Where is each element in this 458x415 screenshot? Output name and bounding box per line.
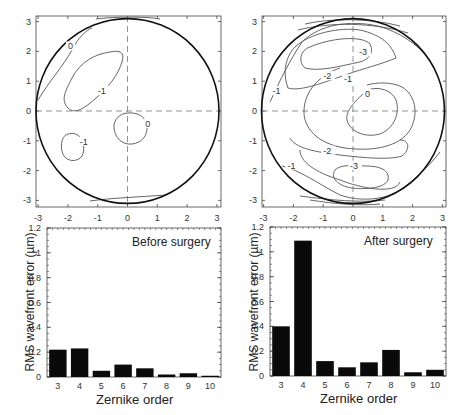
svg-text:0: 0 <box>365 89 370 99</box>
svg-text:3: 3 <box>55 381 60 391</box>
svg-text:2: 2 <box>26 46 31 56</box>
svg-text:-1: -1 <box>319 213 327 223</box>
svg-text:9: 9 <box>410 380 415 390</box>
svg-text:-1: -1 <box>344 74 352 84</box>
bar-6 <box>338 367 356 376</box>
x-axis-label-after: Zernike order <box>320 391 397 406</box>
svg-text:10: 10 <box>205 381 215 391</box>
bar-6 <box>114 365 131 377</box>
bar-7 <box>136 368 153 377</box>
svg-text:0: 0 <box>26 106 31 116</box>
before-surgery-label: Before surgery <box>132 235 211 249</box>
svg-text:7: 7 <box>142 381 147 391</box>
svg-text:-2: -2 <box>23 166 31 176</box>
svg-text:10: 10 <box>430 380 440 390</box>
svg-text:-2: -2 <box>64 213 72 223</box>
after-surgery-label: After surgery <box>364 234 433 248</box>
svg-text:-2: -2 <box>323 71 331 81</box>
svg-text:-1: -1 <box>94 213 102 223</box>
svg-text:1: 1 <box>252 76 257 86</box>
svg-text:-1: -1 <box>287 161 295 171</box>
contour-plot-before: -3-2-101233210-1-2-30-10-1 <box>23 16 221 223</box>
svg-text:6: 6 <box>344 380 349 390</box>
svg-text:-1: -1 <box>273 86 281 96</box>
svg-text:4: 4 <box>77 381 82 391</box>
svg-text:5: 5 <box>322 380 327 390</box>
svg-text:2: 2 <box>410 213 415 223</box>
svg-text:3: 3 <box>278 380 283 390</box>
svg-text:6: 6 <box>121 381 126 391</box>
svg-text:-1: -1 <box>23 136 31 146</box>
bar-10 <box>201 376 218 377</box>
svg-text:0: 0 <box>68 41 73 51</box>
svg-text:-3: -3 <box>249 195 257 205</box>
y-axis-label-after: RMS wavefront error (µm) <box>247 212 261 392</box>
svg-text:5: 5 <box>99 381 104 391</box>
x-axis-label-before: Zernike order <box>96 392 173 407</box>
svg-text:-2: -2 <box>323 146 331 156</box>
svg-text:1: 1 <box>26 76 31 86</box>
svg-text:-1: -1 <box>80 137 88 147</box>
svg-text:-3: -3 <box>23 195 31 205</box>
svg-text:3: 3 <box>440 213 445 223</box>
svg-text:2: 2 <box>185 213 190 223</box>
svg-text:7: 7 <box>366 380 371 390</box>
svg-text:1: 1 <box>155 213 160 223</box>
svg-text:3: 3 <box>214 213 219 223</box>
contour-plot-after: -3-2-101233210-1-2-3-3-2-1-10-2-3-1 <box>249 16 446 223</box>
bar-7 <box>360 362 378 376</box>
svg-text:2: 2 <box>252 46 257 56</box>
svg-text:8: 8 <box>164 381 169 391</box>
svg-text:-2: -2 <box>289 213 297 223</box>
bar-9 <box>404 372 422 376</box>
svg-text:0: 0 <box>252 106 257 116</box>
bar-4 <box>294 241 312 376</box>
bar-5 <box>93 371 110 377</box>
svg-text:0: 0 <box>145 119 150 129</box>
svg-text:0: 0 <box>350 213 355 223</box>
bar-8 <box>382 350 400 376</box>
bar-10 <box>426 370 444 376</box>
bar-8 <box>158 375 175 377</box>
svg-text:-1: -1 <box>98 86 106 96</box>
y-axis-label-before: RMS wavefront error (µm) <box>23 212 37 392</box>
svg-text:-1: -1 <box>249 136 257 146</box>
svg-text:4: 4 <box>300 380 305 390</box>
svg-text:3: 3 <box>252 17 257 27</box>
svg-text:-3: -3 <box>359 47 367 57</box>
svg-text:-3: -3 <box>350 161 358 171</box>
bar-4 <box>71 348 88 377</box>
svg-text:9: 9 <box>186 381 191 391</box>
svg-text:1: 1 <box>380 213 385 223</box>
svg-text:0: 0 <box>125 213 130 223</box>
bar-3 <box>272 326 290 376</box>
bar-5 <box>316 361 334 376</box>
bar-3 <box>49 350 66 377</box>
svg-text:3: 3 <box>26 17 31 27</box>
figure: -3-2-101233210-1-2-30-10-1-3-2-101233210… <box>0 0 458 415</box>
bar-9 <box>180 373 197 377</box>
svg-text:-2: -2 <box>249 166 257 176</box>
svg-text:8: 8 <box>388 380 393 390</box>
